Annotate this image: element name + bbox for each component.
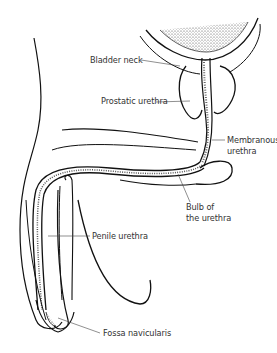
label-membranous-urethra-line2: urethra	[227, 146, 257, 156]
leader-fossa-navicularis	[58, 318, 100, 333]
label-bulb-line2: the urethra	[186, 213, 231, 223]
label-fossa-navicularis: Fossa navicularis	[103, 328, 171, 338]
label-bladder-neck: Bladder neck	[90, 55, 143, 65]
prostate	[179, 66, 235, 119]
leader-bulb	[178, 174, 190, 202]
urethral-bulb	[120, 161, 232, 185]
bladder	[140, 18, 260, 74]
label-bulb-line1: Bulb of	[186, 202, 214, 212]
label-penile-urethra: Penile urethra	[92, 231, 148, 241]
leader-bladder-neck	[141, 60, 180, 66]
label-prostatic-urethra: Prostatic urethra	[101, 96, 168, 106]
anatomy-illustration	[0, 0, 277, 353]
label-membranous-urethra-line1: Membranous	[227, 135, 277, 145]
urethra-diagram: Bladder neck Prostatic urethra Membranou…	[0, 0, 277, 353]
